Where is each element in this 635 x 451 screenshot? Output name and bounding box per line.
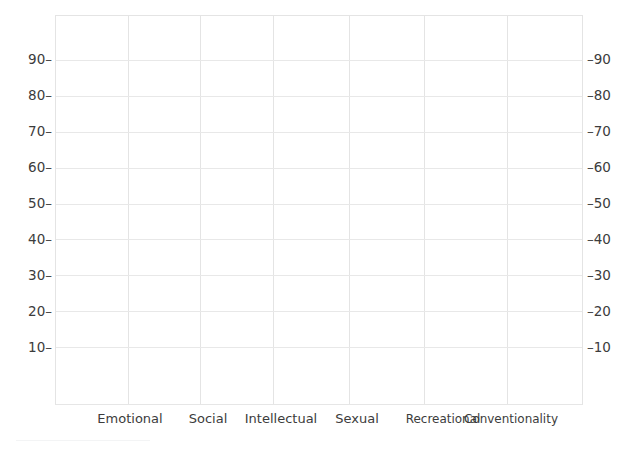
y-tick-right-70: – 70	[587, 125, 611, 139]
y-tick-left-60: 60 –	[28, 161, 52, 175]
y-tick-left-60-value: 60	[28, 159, 45, 175]
y-tick-right-80-value: 80	[594, 87, 611, 103]
tick-dash-icon: –	[45, 197, 52, 211]
x-axis-labels: Emotional Social Intellectual Sexual Rec…	[55, 411, 583, 433]
tick-dash-icon: –	[587, 341, 594, 355]
tick-dash-icon: –	[45, 233, 52, 247]
tick-dash-icon: –	[45, 161, 52, 175]
y-tick-right-70-value: 70	[594, 123, 611, 139]
tick-dash-icon: –	[45, 125, 52, 139]
y-tick-left-30: 30 –	[28, 269, 52, 283]
y-tick-left-70: 70 –	[28, 125, 52, 139]
y-tick-right-10: – 10	[587, 341, 611, 355]
y-tick-right-60: – 60	[587, 161, 611, 175]
tick-dash-icon: –	[587, 161, 594, 175]
y-tick-right-30: – 30	[587, 269, 611, 283]
y-tick-left-10: 10 –	[28, 341, 52, 355]
y-tick-right-40-value: 40	[594, 231, 611, 247]
y-tick-left-90: 90 –	[28, 53, 52, 67]
x-label-intellectual: Intellectual	[245, 411, 317, 427]
tick-dash-icon: –	[587, 89, 594, 103]
tick-dash-icon: –	[587, 269, 594, 283]
tick-dash-icon: –	[587, 197, 594, 211]
y-axis-left: 90 – 80 – 70 – 60 – 50 – 40 – 30 – 20 – …	[0, 0, 52, 451]
x-label-sexual: Sexual	[335, 411, 379, 427]
plot-gridlines	[56, 16, 582, 404]
y-tick-left-10-value: 10	[28, 339, 45, 355]
y-tick-right-20-value: 20	[594, 303, 611, 319]
y-tick-right-10-value: 10	[594, 339, 611, 355]
y-tick-right-80: – 80	[587, 89, 611, 103]
plot-area	[55, 15, 583, 405]
y-tick-right-50-value: 50	[594, 195, 611, 211]
tick-dash-icon: –	[45, 305, 52, 319]
tick-dash-icon: –	[587, 125, 594, 139]
tick-dash-icon: –	[587, 305, 594, 319]
tick-dash-icon: –	[587, 233, 594, 247]
y-tick-right-90: – 90	[587, 53, 611, 67]
chart-title	[240, 0, 400, 6]
tick-dash-icon: –	[45, 89, 52, 103]
y-tick-left-80: 80 –	[28, 89, 52, 103]
y-tick-left-50: 50 –	[28, 197, 52, 211]
y-tick-left-40: 40 –	[28, 233, 52, 247]
y-tick-left-20-value: 20	[28, 303, 45, 319]
y-tick-right-50: – 50	[587, 197, 611, 211]
x-label-emotional: Emotional	[97, 411, 162, 427]
y-tick-right-30-value: 30	[594, 267, 611, 283]
y-tick-left-70-value: 70	[28, 123, 45, 139]
y-tick-right-60-value: 60	[594, 159, 611, 175]
tick-dash-icon: –	[587, 53, 594, 67]
tick-dash-icon: –	[45, 53, 52, 67]
tick-dash-icon: –	[45, 341, 52, 355]
tick-dash-icon: –	[45, 269, 52, 283]
chart-figure: 90 – 80 – 70 – 60 – 50 – 40 – 30 – 20 – …	[0, 0, 635, 451]
y-tick-left-40-value: 40	[28, 231, 45, 247]
x-label-social: Social	[189, 411, 228, 427]
y-tick-left-50-value: 50	[28, 195, 45, 211]
y-tick-left-20: 20 –	[28, 305, 52, 319]
y-tick-left-90-value: 90	[28, 51, 45, 67]
y-tick-right-90-value: 90	[594, 51, 611, 67]
y-tick-right-40: – 40	[587, 233, 611, 247]
footer-separator-rule	[16, 440, 150, 441]
x-label-conventionality: Conventionality	[464, 411, 558, 427]
y-tick-left-30-value: 30	[28, 267, 45, 283]
y-tick-left-80-value: 80	[28, 87, 45, 103]
y-tick-right-20: – 20	[587, 305, 611, 319]
y-axis-right: – 90 – 80 – 70 – 60 – 50 – 40 – 30 – 20 …	[587, 0, 635, 451]
